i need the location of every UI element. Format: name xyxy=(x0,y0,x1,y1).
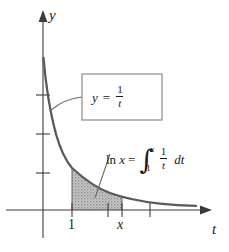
ln-argument: x xyxy=(119,153,125,166)
integral-symbol-group: ∫ x 1 xyxy=(139,146,155,172)
callout-lhs: y xyxy=(92,91,98,104)
y-axis-label: y xyxy=(49,8,56,23)
callout-leader-line xyxy=(51,97,82,110)
x-tick-label-one: 1 xyxy=(68,218,75,232)
t-axis-label: t xyxy=(212,222,216,237)
annotation-equals: = xyxy=(128,153,135,166)
integral-lower-limit: 1 xyxy=(146,164,151,173)
callout-fraction: 1 t xyxy=(115,84,125,109)
ln-label: ln xyxy=(106,153,116,166)
integral-annotation: ln x = ∫ x 1 1 t dt xyxy=(106,146,184,172)
callout-fraction-denominator: t xyxy=(116,96,123,109)
callout-equals: = xyxy=(103,91,110,104)
integrand-fraction: 1 t xyxy=(159,146,169,171)
t-axis-arrowhead xyxy=(200,206,212,215)
integrand-denominator: t xyxy=(160,158,167,171)
x-tick-label-x: x xyxy=(117,218,123,232)
logarithm-area-figure: y t 1 x y = 1 t ln x = ∫ x 1 1 t dt xyxy=(0,0,229,252)
figure-canvas xyxy=(0,0,229,252)
integral-upper-limit: x xyxy=(150,145,155,154)
integrand-numerator: 1 xyxy=(159,146,169,158)
callout-equation: y = 1 t xyxy=(92,85,125,110)
differential-dt: dt xyxy=(174,153,184,166)
y-axis-arrowhead xyxy=(39,10,48,22)
callout-fraction-numerator: 1 xyxy=(115,84,125,96)
